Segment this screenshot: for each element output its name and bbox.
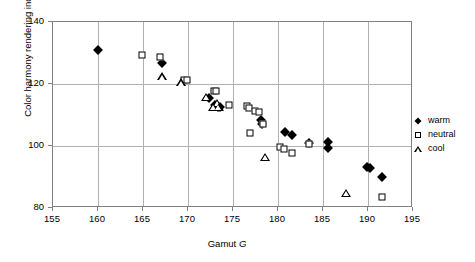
y-tick-mark bbox=[48, 21, 52, 22]
y-tick-mark bbox=[48, 83, 52, 84]
y-tick-label: 80 bbox=[14, 201, 44, 212]
data-point-cool bbox=[214, 103, 224, 111]
x-tick-label: 190 bbox=[347, 213, 387, 224]
chart-legend: warm neutral cool bbox=[414, 114, 472, 156]
legend-label-neutral: neutral bbox=[428, 129, 456, 139]
x-tick-mark bbox=[322, 207, 323, 211]
data-point-neutral bbox=[379, 193, 386, 200]
data-point-neutral bbox=[259, 121, 266, 128]
data-point-warm bbox=[93, 45, 103, 55]
x-tick-mark bbox=[232, 207, 233, 211]
data-point-neutral bbox=[281, 145, 288, 152]
data-point-warm bbox=[377, 172, 387, 182]
neutral-square-icon bbox=[415, 132, 421, 138]
x-tick-label: 195 bbox=[392, 213, 432, 224]
x-tick-mark bbox=[187, 207, 188, 211]
x-tick-label: 155 bbox=[32, 213, 72, 224]
x-tick-mark bbox=[52, 207, 53, 211]
y-tick-label: 140 bbox=[14, 15, 44, 26]
gridline-vertical bbox=[368, 22, 369, 206]
chart-figure: Color harmony rendering index Rhr Gamut … bbox=[0, 0, 475, 262]
gridline-vertical bbox=[323, 22, 324, 206]
x-axis-title: Gamut G bbox=[172, 238, 282, 249]
data-point-cool bbox=[260, 153, 270, 161]
x-axis-symbol: G bbox=[239, 238, 246, 249]
legend-label-warm: warm bbox=[428, 115, 450, 125]
data-point-cool bbox=[157, 72, 167, 80]
y-tick-mark bbox=[48, 145, 52, 146]
data-point-warm bbox=[323, 144, 333, 154]
data-point-cool bbox=[341, 189, 351, 197]
legend-label-cool: cool bbox=[428, 143, 445, 153]
x-tick-label: 165 bbox=[122, 213, 162, 224]
data-point-neutral bbox=[305, 140, 312, 147]
x-tick-mark bbox=[412, 207, 413, 211]
x-tick-mark bbox=[97, 207, 98, 211]
plot-area bbox=[52, 21, 412, 207]
data-point-neutral bbox=[256, 108, 263, 115]
gridline-vertical bbox=[143, 22, 144, 206]
x-axis-title-text: Gamut bbox=[208, 238, 237, 249]
x-tick-label: 180 bbox=[257, 213, 297, 224]
legend-item-warm: warm bbox=[414, 114, 472, 128]
gridline-vertical bbox=[188, 22, 189, 206]
data-point-neutral bbox=[247, 130, 254, 137]
data-point-neutral bbox=[212, 88, 219, 95]
x-tick-label: 170 bbox=[167, 213, 207, 224]
y-tick-label: 100 bbox=[14, 139, 44, 150]
y-tick-label: 120 bbox=[14, 77, 44, 88]
cool-triangle-icon bbox=[414, 146, 422, 152]
gridline-horizontal bbox=[53, 84, 411, 85]
x-tick-mark bbox=[142, 207, 143, 211]
data-point-cool bbox=[176, 78, 186, 86]
x-tick-mark bbox=[277, 207, 278, 211]
legend-item-cool: cool bbox=[414, 142, 472, 156]
x-tick-label: 175 bbox=[212, 213, 252, 224]
x-tick-label: 160 bbox=[77, 213, 117, 224]
warm-diamond-icon bbox=[414, 117, 421, 124]
data-point-neutral bbox=[157, 53, 164, 60]
data-point-neutral bbox=[289, 149, 296, 156]
gridline-horizontal bbox=[53, 146, 411, 147]
x-tick-label: 185 bbox=[302, 213, 342, 224]
gridline-vertical bbox=[278, 22, 279, 206]
legend-item-neutral: neutral bbox=[414, 128, 472, 142]
x-tick-mark bbox=[367, 207, 368, 211]
gridline-vertical bbox=[233, 22, 234, 206]
data-point-cool bbox=[201, 93, 211, 101]
data-point-neutral bbox=[226, 102, 233, 109]
data-point-neutral bbox=[139, 52, 146, 59]
